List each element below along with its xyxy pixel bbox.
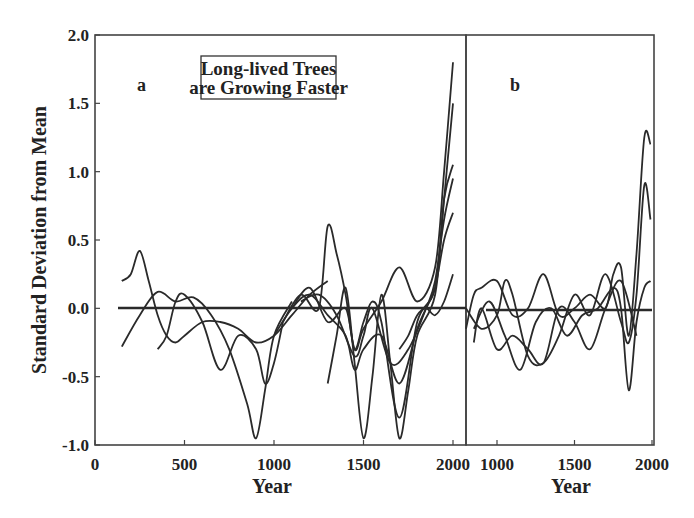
y-tick-label: 1.0 — [68, 163, 89, 182]
chart-canvas: Long-lived Trees are Growing Faster a b … — [0, 0, 694, 518]
x-axis-title-a: Year — [252, 475, 292, 497]
chart-figure: Long-lived Trees are Growing Faster a b … — [0, 0, 694, 518]
data-series — [122, 62, 651, 438]
x-tick-label: 0 — [91, 455, 100, 474]
series-line-tree-2 — [122, 292, 292, 439]
chart-title-line1: Long-lived Trees — [201, 58, 337, 79]
y-tick-label: 2.0 — [68, 26, 89, 45]
series-line-tree-9 — [399, 274, 453, 349]
y-tick-label: -0.5 — [62, 368, 89, 387]
tick-labels: 0500100015002000100015002000-1.0-0.50.00… — [62, 26, 669, 474]
panel-a-label: a — [137, 75, 146, 95]
x-axis-title-b: Year — [551, 475, 591, 497]
x-tick-label: 2000 — [436, 455, 470, 474]
series-line-tree-8 — [274, 213, 453, 384]
y-tick-label: 0.5 — [68, 231, 89, 250]
panel-b-label: b — [510, 75, 520, 95]
x-tick-label: 1000 — [480, 455, 514, 474]
axis-ticks — [95, 35, 652, 445]
y-tick-label: 1.5 — [68, 94, 89, 113]
x-tick-label: 2000 — [635, 455, 669, 474]
x-tick-label: 1500 — [347, 455, 381, 474]
x-tick-label: 1500 — [558, 455, 592, 474]
y-tick-label: 0.0 — [68, 299, 89, 318]
series-line-tree-b4 — [474, 280, 637, 364]
x-tick-label: 1000 — [257, 455, 291, 474]
panel-b-frame — [466, 35, 654, 445]
y-axis-title: Standard Deviation from Mean — [28, 106, 50, 374]
y-tick-label: -1.0 — [62, 436, 89, 455]
chart-title-line2: are Growing Faster — [189, 77, 348, 98]
x-tick-label: 500 — [172, 455, 198, 474]
